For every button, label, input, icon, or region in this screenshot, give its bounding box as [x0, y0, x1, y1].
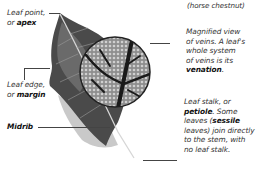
label-venation: Magnified view of veins. A leaf's whole … [186, 27, 245, 75]
petiole-leader-line [143, 160, 177, 161]
venation-leader-line [150, 43, 170, 44]
margin-term: margin [17, 90, 46, 99]
margin-or: or [7, 90, 17, 99]
caption-top: (horse chestnut) [187, 1, 245, 11]
label-midrib: Midrib [7, 122, 33, 132]
venation-line3: whole system [186, 46, 236, 55]
label-apex: Leaf point, or apex [7, 8, 45, 27]
apex-or: or [7, 18, 17, 27]
petiole-line1: Leaf stalk, or [184, 97, 231, 106]
venation-line2: of veins. A leaf's [186, 37, 245, 46]
petiole-line2-rest: . Some [212, 107, 237, 116]
apex-leader-line [49, 13, 60, 14]
sessile-term: sessile [212, 116, 240, 125]
petiole-term: petiole [184, 107, 212, 116]
apex-term: apex [17, 18, 37, 27]
petiole-line6: no leaf stalk. [184, 145, 230, 154]
venation-end: . [222, 65, 224, 74]
label-petiole: Leaf stalk, or petiole. Some leaves (ses… [184, 97, 254, 155]
margin-text: Leaf edge, [7, 80, 45, 89]
margin-leader-line-h [24, 68, 50, 69]
petiole-line5: to the stem, with [184, 135, 245, 144]
venation-term: venation [186, 65, 222, 74]
petiole-line4: leaves) join directly [184, 126, 254, 135]
midrib-leader-line [38, 127, 110, 128]
apex-text: Leaf point, [7, 8, 45, 17]
petiole-line3: leaves ( [184, 116, 212, 125]
venation-line4: of veins is its [186, 56, 233, 65]
margin-leader-line-v [24, 68, 25, 80]
venation-line1: Magnified view [186, 27, 240, 36]
midrib-term: Midrib [7, 122, 33, 131]
label-margin: Leaf edge, or margin [7, 80, 45, 99]
